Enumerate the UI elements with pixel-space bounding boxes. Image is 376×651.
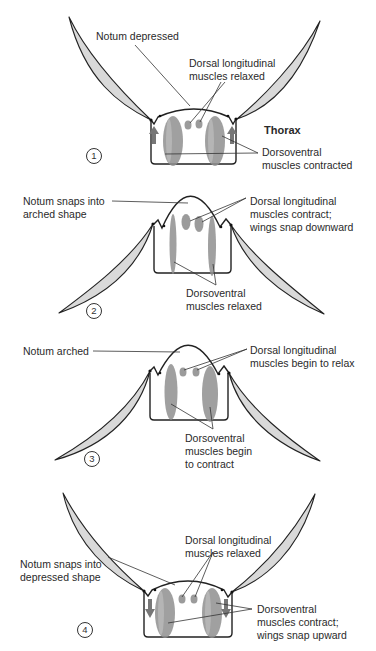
label-dorsal-longitudinal-4b: muscles relaxed <box>185 547 261 559</box>
notum <box>150 345 229 375</box>
label-dorsoventral-2b: muscles relaxed <box>186 300 262 312</box>
thorax-body <box>154 226 231 273</box>
label-dorsoventral-2: Dorsoventral <box>186 287 246 299</box>
label-dorsal-longitudinal-2b: muscles contract; <box>250 208 332 220</box>
label-dorsoventral-1b: muscles contracted <box>262 159 352 171</box>
label-notum-arched: Notum arched <box>23 345 89 357</box>
dorsal-longitudinal-muscle <box>182 214 191 230</box>
label-dorsoventral-4b: muscles contract; <box>257 616 339 628</box>
label-notum-arching-b: arched shape <box>23 208 87 220</box>
step-4-badge: 4 <box>77 622 93 638</box>
dorsoventral-muscle-left <box>165 364 178 420</box>
label-dorsal-longitudinal-2c: wings snap downward <box>250 221 353 233</box>
label-dorsoventral-1: Dorsoventral <box>262 146 322 158</box>
dorsoventral-muscle-right <box>208 216 216 276</box>
label-dorsoventral-3c: to contract <box>185 458 234 470</box>
label-dorsal-longitudinal-2: Dorsal longitudinal <box>250 195 336 207</box>
label-dorsal-longitudinal-4: Dorsal longitudinal <box>185 534 271 546</box>
label-dorsoventral-3: Dorsoventral <box>185 432 245 444</box>
label-notum-depressed: Notum depressed <box>96 30 179 42</box>
label-notum-depressing: Notum snaps into <box>20 558 102 570</box>
label-dorsal-longitudinal-1: Dorsal longitudinal <box>189 57 275 69</box>
step-1-badge: 1 <box>86 148 102 164</box>
left-wing <box>59 224 153 313</box>
thorax-label: Thorax <box>264 124 301 136</box>
dorsal-longitudinal-muscle <box>185 121 192 130</box>
dorsal-longitudinal-muscle <box>180 368 187 377</box>
dorsoventral-muscle-right <box>202 366 218 422</box>
left-wing <box>55 371 150 460</box>
label-dorsoventral-4: Dorsoventral <box>257 603 317 615</box>
label-dorsoventral-4c: wings snap upward <box>257 629 347 641</box>
dorsal-longitudinal-muscle <box>179 595 186 604</box>
label-notum-depressing-b: depressed shape <box>20 571 101 583</box>
label-dorsal-longitudinal-3: Dorsal longitudinal <box>250 344 336 356</box>
step-2-badge: 2 <box>86 303 102 319</box>
label-dorsoventral-3b: muscles begin <box>185 445 252 457</box>
label-notum-arching: Notum snaps into <box>23 195 105 207</box>
label-dorsal-longitudinal-3b: muscles begin to relax <box>250 357 354 369</box>
label-dorsal-longitudinal-1b: muscles relaxed <box>189 70 265 82</box>
dorsoventral-muscle-left <box>170 214 177 274</box>
step-3-badge: 3 <box>84 451 100 467</box>
